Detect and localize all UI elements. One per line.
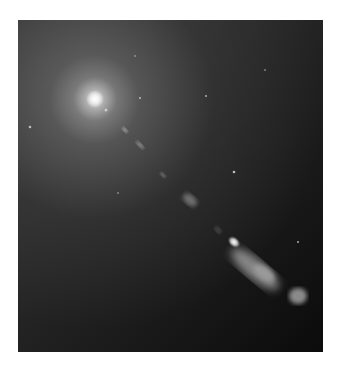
galaxy-core [86,90,104,108]
outer-lobe [289,288,307,304]
galaxy-jet-graphic [18,20,323,352]
stars [29,55,299,243]
bright-knot [225,234,242,251]
galaxy-jet-photo [18,20,323,352]
jet [105,109,308,305]
